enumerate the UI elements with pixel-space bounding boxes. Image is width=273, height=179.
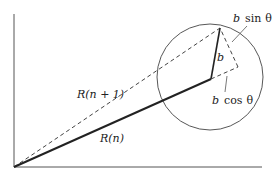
b-cos-component bbox=[211, 67, 238, 79]
label-b-cos-theta: b cos θ bbox=[212, 90, 253, 107]
b-cos-leader bbox=[225, 76, 227, 92]
label-b-sin-theta: b sin θ bbox=[233, 8, 272, 25]
random-walk-diagram: R(n + 1) R(n) b b sin θ b cos θ bbox=[0, 0, 273, 179]
b-sin-leader bbox=[232, 26, 247, 42]
step-circle bbox=[157, 24, 263, 130]
diagram-svg: R(n + 1) R(n) b b sin θ b cos θ bbox=[0, 0, 273, 179]
label-r-n: R(n) bbox=[99, 132, 124, 145]
label-b: b bbox=[217, 51, 224, 64]
label-r-n-plus-1: R(n + 1) bbox=[76, 88, 124, 101]
